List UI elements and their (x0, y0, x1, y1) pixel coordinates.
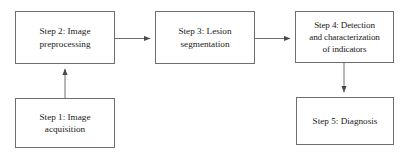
node-step-2-image-preprocessing[interactable]: Step 2: Image preprocessing (15, 11, 115, 64)
node-step-4-detection-and-characterization[interactable]: Step 4: Detection and characterization o… (295, 11, 394, 63)
node-step-3-label: Step 3: Lesion segmentation (177, 25, 232, 49)
node-step-5-diagnosis[interactable]: Step 5: Diagnosis (296, 97, 394, 145)
flowchart-diagram: Step 2: Image preprocessing Step 1: Imag… (0, 0, 407, 156)
node-step-4-label: Step 4: Detection and characterization o… (308, 19, 380, 55)
node-step-2-label: Step 2: Image preprocessing (38, 25, 91, 49)
node-step-1-image-acquisition[interactable]: Step 1: Image acquisition (15, 98, 115, 148)
node-step-1-label: Step 1: Image acquisition (38, 111, 91, 135)
node-step-5-label: Step 5: Diagnosis (312, 115, 379, 127)
node-step-3-lesion-segmentation[interactable]: Step 3: Lesion segmentation (155, 11, 255, 64)
